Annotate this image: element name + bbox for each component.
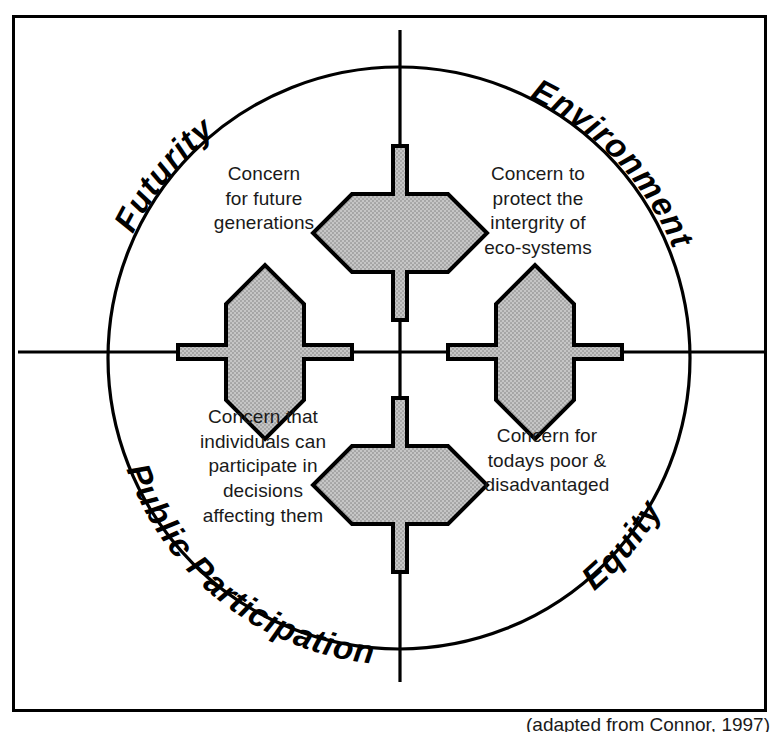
- sustainability-diagram: Futurity Environment Public Participatio…: [0, 0, 780, 732]
- quadrant-text-environment: Concern to protect the intergrity of eco…: [452, 162, 624, 261]
- quadrant-text-public-participation: Concern that individuals can participate…: [168, 405, 358, 528]
- quadrant-text-futurity: Concern for future generations: [184, 162, 344, 236]
- curved-label-equity-text: Equity: [574, 493, 669, 597]
- arrow-right: [448, 265, 622, 439]
- figure-caption: (adapted from Connor, 1997): [0, 714, 770, 732]
- curved-label-equity: Equity: [574, 493, 669, 597]
- quadrant-text-equity: Concern for todays poor & disadvantaged: [452, 424, 642, 498]
- svg-text:Equity: Equity: [574, 493, 669, 597]
- outer-frame: [14, 17, 766, 711]
- figure-canvas: Futurity Environment Public Participatio…: [0, 0, 780, 732]
